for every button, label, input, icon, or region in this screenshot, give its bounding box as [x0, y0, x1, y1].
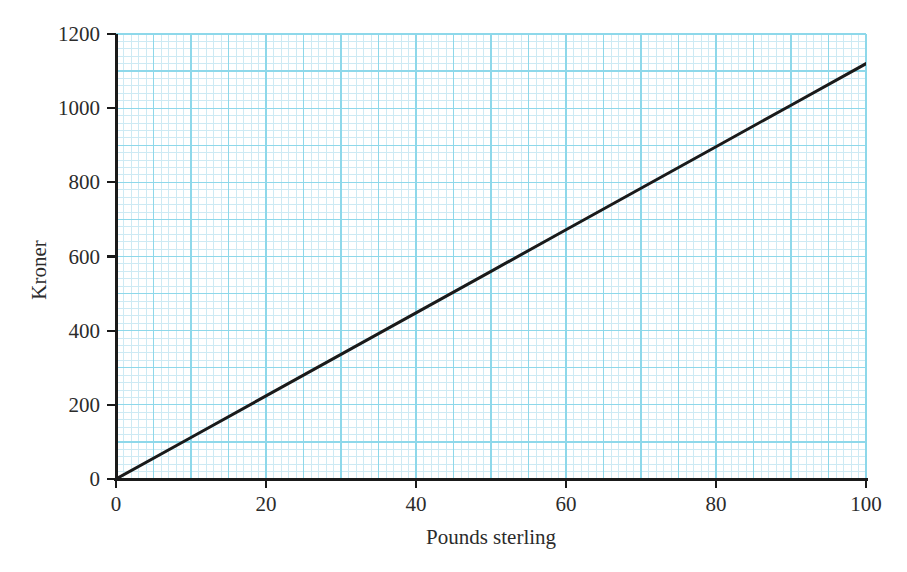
grid-major-lines [116, 34, 866, 479]
y-tick-label: 400 [69, 319, 101, 343]
y-tick-label: 800 [69, 170, 101, 194]
x-tick-label: 20 [256, 492, 277, 516]
y-tick-label: 200 [69, 393, 101, 417]
x-tick-label: 100 [850, 492, 882, 516]
currency-conversion-chart: 020406080100 020040060080010001200 Pound… [0, 0, 907, 572]
y-axis-title: Kroner [27, 240, 51, 299]
y-tick-label: 600 [69, 245, 101, 269]
y-tick-label: 0 [90, 467, 101, 491]
x-tick-label: 40 [406, 492, 427, 516]
x-tick-label: 60 [556, 492, 577, 516]
chart-canvas: 020406080100 020040060080010001200 Pound… [0, 0, 907, 572]
x-axis-title: Pounds sterling [426, 525, 557, 549]
y-tick-label: 1200 [58, 22, 100, 46]
x-tick-label: 0 [111, 492, 122, 516]
y-tick-label: 1000 [58, 96, 100, 120]
x-tick-label: 80 [706, 492, 727, 516]
